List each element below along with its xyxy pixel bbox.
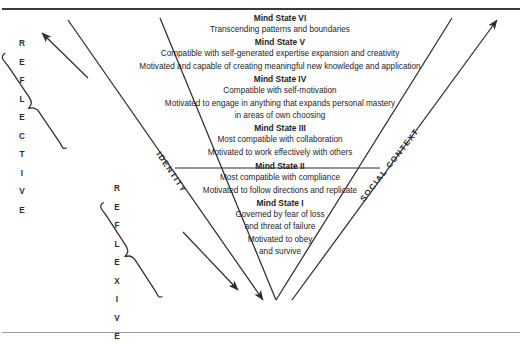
mind-state-line: in areas of own choosing — [100, 110, 460, 122]
mind-state-title: Mind State I — [100, 197, 460, 209]
mind-state-line: Motivated to engage in anything that exp… — [100, 98, 460, 110]
mind-state-line: Transcending patterns and boundaries — [100, 24, 460, 36]
reflexive-letter: E — [110, 333, 124, 344]
reflexive-letter: E — [110, 259, 124, 278]
reflective-letter: C — [15, 133, 29, 152]
mind-state-block: Mind State IV Compatible with self-motiv… — [100, 73, 460, 122]
mind-state-line: and threat of failure — [100, 221, 460, 233]
mind-state-line: Motivated to obey — [100, 234, 460, 246]
mind-state-title: Mind State III — [100, 122, 460, 134]
mind-state-line: Motivated and capable of creating meanin… — [100, 61, 460, 73]
mind-state-block: Mind State I Governed by fear of loss an… — [100, 197, 460, 259]
mind-state-block: Mind State V Compatible with self-genera… — [100, 36, 460, 73]
mind-state-block: Mind State II Most compatible with compl… — [100, 160, 460, 197]
mind-state-title: Mind State II — [100, 160, 460, 172]
mind-state-block: Mind State VI Transcending patterns and … — [100, 12, 460, 36]
mind-states-list: Mind State VI Transcending patterns and … — [100, 12, 460, 259]
reflexive-letter: X — [110, 278, 124, 297]
reflective-letter: E — [15, 59, 29, 78]
mind-state-title: Mind State VI — [100, 12, 460, 24]
mind-state-line: Governed by fear of loss — [100, 209, 460, 221]
reflective-letter: F — [15, 77, 29, 96]
mind-state-line: Motivated to follow directions and repli… — [100, 185, 460, 197]
mind-state-title: Mind State IV — [100, 73, 460, 85]
mind-state-line: Compatible with self-generated expertise… — [100, 48, 460, 60]
mind-state-line: Compatible with self-motivation — [100, 85, 460, 97]
reflective-brace — [0, 53, 68, 153]
mind-state-block: Mind State III Most compatible with coll… — [100, 122, 460, 159]
reflexive-letter: I — [110, 296, 124, 315]
reflective-letter: V — [15, 188, 29, 207]
reflective-letter: L — [15, 96, 29, 115]
diagram-canvas: R E F L E C T I V E R E F L E X I V E ID… — [0, 0, 524, 344]
mind-state-title: Mind State V — [100, 36, 460, 48]
mind-state-line: Most compatible with compliance — [100, 172, 460, 184]
reflective-letter: T — [15, 151, 29, 170]
reflexive-letter: V — [110, 315, 124, 334]
mind-state-line: Motivated to work effectively with other… — [100, 147, 460, 159]
reflective-letter: E — [15, 207, 29, 226]
mind-state-line: Most compatible with collaboration — [100, 134, 460, 146]
reflective-letter: R — [15, 40, 29, 59]
label-reflective: R E F L E C T I V E — [15, 40, 29, 225]
reflective-letter: E — [15, 114, 29, 133]
mind-state-line: and survive — [100, 246, 460, 258]
reflective-letter: I — [15, 170, 29, 189]
